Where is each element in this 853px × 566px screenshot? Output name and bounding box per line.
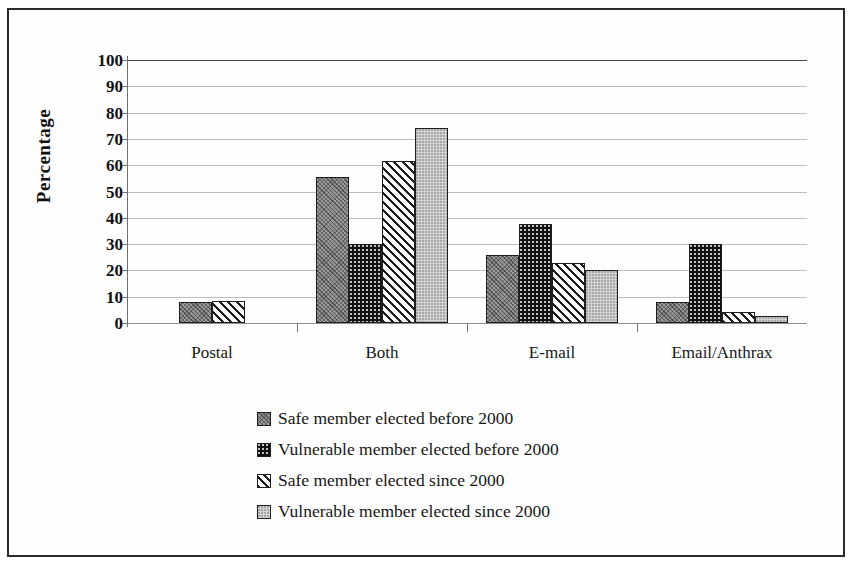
- legend-swatch-icon: [257, 474, 271, 488]
- y-tick-label-0: 0: [67, 315, 123, 332]
- y-tick-mark-20: [122, 270, 128, 271]
- y-tick-mark-40: [122, 218, 128, 219]
- y-tick-label-60: 60: [67, 157, 123, 174]
- legend-item: Vulnerable member elected before 2000: [257, 434, 727, 465]
- y-tick-label-70: 70: [67, 130, 123, 147]
- bar: [212, 301, 245, 323]
- category-separator-tick: [467, 323, 468, 332]
- bar: [179, 302, 212, 323]
- x-axis-label-email-anthrax: Email/Anthrax: [671, 343, 772, 363]
- bar: [415, 128, 448, 323]
- bar: [349, 244, 382, 323]
- bar-group: [637, 60, 807, 323]
- y-tick-mark-50: [122, 192, 128, 193]
- x-axis-label-postal: Postal: [191, 343, 233, 363]
- legend-item: Safe member elected since 2000: [257, 465, 727, 496]
- y-tick-label-90: 90: [67, 78, 123, 95]
- legend-label: Safe member elected since 2000: [278, 470, 504, 491]
- category-separator-tick: [637, 323, 638, 332]
- y-tick-mark-10: [122, 297, 128, 298]
- bar-group: [127, 60, 297, 323]
- y-tick-mark-60: [122, 165, 128, 166]
- x-axis-label-e-mail: E-mail: [529, 343, 575, 363]
- y-tick-mark-100: [122, 60, 128, 61]
- legend-swatch-icon: [257, 443, 271, 457]
- category-separator-tick: [297, 323, 298, 332]
- bar: [722, 312, 755, 323]
- x-axis-label-both: Both: [365, 343, 398, 363]
- legend-item: Vulnerable member elected since 2000: [257, 496, 727, 527]
- y-tick-label-80: 80: [67, 104, 123, 121]
- y-tick-label-20: 20: [67, 262, 123, 279]
- y-tick-mark-90: [122, 86, 128, 87]
- bar: [316, 177, 349, 323]
- bar: [585, 270, 618, 323]
- plot-area: [127, 60, 807, 323]
- y-axis-tick-labels: 1009080706050403020100: [67, 10, 123, 390]
- y-axis-title: Percentage: [33, 91, 55, 221]
- y-tick-mark-70: [122, 139, 128, 140]
- y-tick-mark-80: [122, 113, 128, 114]
- y-tick-label-10: 10: [67, 288, 123, 305]
- legend-swatch-icon: [257, 412, 271, 426]
- legend-label: Vulnerable member elected since 2000: [278, 501, 550, 522]
- bar: [382, 161, 415, 323]
- bar-chart: Percentage 1009080706050403020100 Postal…: [9, 10, 847, 390]
- bar: [656, 302, 689, 323]
- legend-label: Safe member elected before 2000: [278, 408, 513, 429]
- y-tick-mark-30: [122, 244, 128, 245]
- bar: [689, 244, 722, 323]
- bar: [519, 224, 552, 323]
- bars-layer: [127, 60, 807, 323]
- bar: [486, 255, 519, 323]
- figure-frame: Percentage 1009080706050403020100 Postal…: [7, 8, 845, 557]
- legend-label: Vulnerable member elected before 2000: [278, 439, 559, 460]
- bar: [552, 263, 585, 323]
- legend-swatch-icon: [257, 505, 271, 519]
- y-tick-label-100: 100: [67, 52, 123, 69]
- y-tick-label-30: 30: [67, 236, 123, 253]
- bar-group: [297, 60, 467, 323]
- x-axis: PostalBothE-mailEmail/Anthrax: [127, 323, 807, 383]
- y-tick-label-40: 40: [67, 209, 123, 226]
- legend-item: Safe member elected before 2000: [257, 403, 727, 434]
- chart-legend: Safe member elected before 2000Vulnerabl…: [257, 403, 727, 527]
- bar-group: [467, 60, 637, 323]
- y-tick-label-50: 50: [67, 183, 123, 200]
